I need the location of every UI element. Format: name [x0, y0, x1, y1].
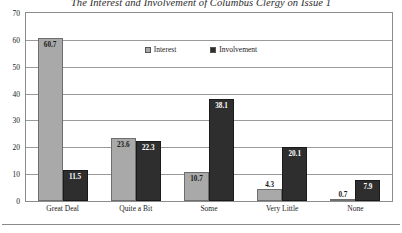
- bar-group: 0.77.9: [330, 13, 380, 201]
- bar-value-label: 22.3: [137, 144, 160, 152]
- bar-value-label: 60.7: [39, 41, 62, 49]
- bar-involvement-some[interactable]: 38.1: [209, 99, 234, 201]
- bar-involvement-quite-a-bit[interactable]: 22.3: [136, 141, 161, 201]
- bars-layer: 60.711.523.622.310.738.14.320.10.77.9: [26, 13, 392, 201]
- bar-value-label: 11.5: [64, 173, 87, 181]
- chart-title: The Interest and Involvement of Columbus…: [0, 0, 402, 8]
- y-axis-tick-label: 60: [13, 35, 21, 44]
- x-axis-tick-label: Great Deal: [46, 204, 79, 213]
- y-axis: 010203040506070: [0, 12, 23, 202]
- bar-value-label: 0.7: [331, 191, 354, 199]
- x-axis-tick-label: Some: [200, 204, 217, 213]
- y-axis-tick-label: 0: [16, 197, 20, 206]
- y-axis-tick-label: 30: [13, 116, 21, 125]
- bar-value-label: 10.7: [185, 175, 208, 183]
- x-axis-tick-label: Quite a Bit: [119, 204, 152, 213]
- y-axis-tick-label: 10: [13, 170, 21, 179]
- bar-involvement-very-little[interactable]: 20.1: [282, 147, 307, 201]
- bar-value-label: 7.9: [356, 183, 379, 191]
- y-axis-tick-label: 70: [13, 9, 21, 18]
- bar-group: 60.711.5: [38, 13, 88, 201]
- bar-interest-some[interactable]: 10.7: [184, 172, 209, 201]
- x-axis: Great DealQuite a BitSomeVery LittleNone: [25, 204, 393, 218]
- bar-value-label: 23.6: [112, 141, 135, 149]
- y-axis-tick-label: 40: [13, 89, 21, 98]
- bar-group: 10.738.1: [184, 13, 234, 201]
- bar-interest-very-little[interactable]: 4.3: [257, 189, 282, 201]
- bar-interest-quite-a-bit[interactable]: 23.6: [111, 138, 136, 201]
- x-axis-tick-label: None: [347, 204, 363, 213]
- bottom-divider: [2, 224, 400, 225]
- y-axis-tick-label: 50: [13, 62, 21, 71]
- bar-group: 4.320.1: [257, 13, 307, 201]
- bar-value-label: 4.3: [258, 181, 281, 189]
- bar-involvement-great-deal[interactable]: 11.5: [63, 170, 88, 201]
- y-axis-tick-label: 20: [13, 143, 21, 152]
- bar-value-label: 20.1: [283, 150, 306, 158]
- chart-figure: The Interest and Involvement of Columbus…: [0, 0, 402, 233]
- bar-interest-none[interactable]: 0.7: [330, 199, 355, 201]
- bar-group: 23.622.3: [111, 13, 161, 201]
- bar-interest-great-deal[interactable]: 60.7: [38, 38, 63, 201]
- bar-involvement-none[interactable]: 7.9: [355, 180, 380, 201]
- x-axis-tick-label: Very Little: [266, 204, 298, 213]
- bar-value-label: 38.1: [210, 102, 233, 110]
